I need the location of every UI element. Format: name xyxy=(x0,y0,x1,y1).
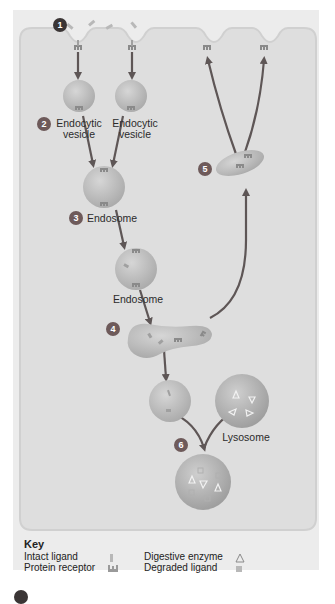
intact-ligand-icon xyxy=(109,553,115,563)
endocytic-vesicle-left xyxy=(63,80,95,112)
protein-receptor-icon xyxy=(107,564,119,573)
legend-item-protein-receptor: Protein receptor xyxy=(24,562,95,573)
digestive-enzyme-icon xyxy=(235,553,245,563)
label-line: vesicle xyxy=(110,129,160,140)
legend-label: Degraded ligand xyxy=(144,562,217,573)
label-endocytic-vesicle-right: Endocytic vesicle xyxy=(110,118,160,140)
legend-label: Digestive enzyme xyxy=(144,551,223,562)
lysosome xyxy=(215,374,269,428)
step-badge-4: 4 xyxy=(106,322,120,336)
step-badge-5: 5 xyxy=(198,162,212,176)
step-badge-2: 2 xyxy=(37,117,51,131)
degraded-ligand-icon xyxy=(235,565,244,574)
legend-item-intact-ligand: Intact ligand xyxy=(24,551,78,562)
endosome-1 xyxy=(83,166,125,208)
label-lysosome: Lysosome xyxy=(216,432,276,443)
legend-item-digestive-enzyme: Digestive enzyme xyxy=(144,551,223,562)
label-line: vesicle xyxy=(54,129,104,140)
legend-title: Key xyxy=(24,538,44,550)
cell xyxy=(20,28,316,530)
endosome-2 xyxy=(115,248,157,290)
next-figure-badge-partial xyxy=(14,590,28,604)
label-endocytic-vesicle-left: Endocytic vesicle xyxy=(54,118,104,140)
legend-label: Intact ligand xyxy=(24,551,78,562)
transport-vesicle xyxy=(149,380,191,422)
endocytic-vesicle-right xyxy=(115,80,147,112)
legend-label: Protein receptor xyxy=(24,562,95,573)
step-badge-1: 1 xyxy=(53,18,67,32)
legend-item-degraded-ligand: Degraded ligand xyxy=(144,562,217,573)
fused-lysosome xyxy=(175,454,231,510)
step-badge-3: 3 xyxy=(69,211,83,225)
label-endosome-1: Endosome xyxy=(87,213,147,224)
step-badge-6: 6 xyxy=(174,438,188,452)
label-endosome-2: Endosome xyxy=(108,294,168,305)
